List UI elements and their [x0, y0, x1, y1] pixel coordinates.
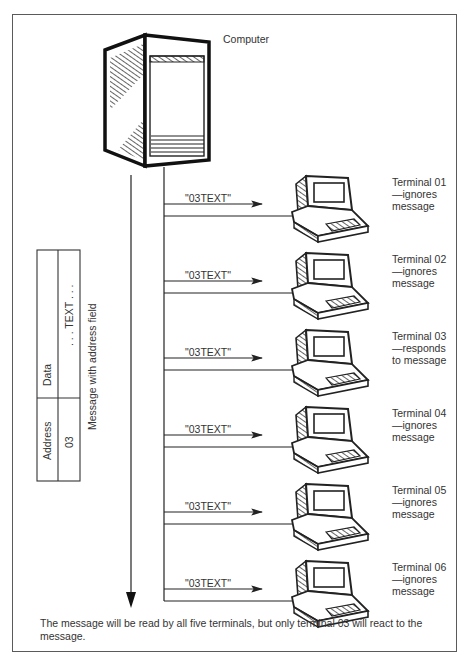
terminal-icon [292, 253, 368, 319]
terminal-action: —ignores [392, 188, 446, 200]
message-label: "03TEXT" [185, 577, 231, 589]
field-value-address: 03 [63, 436, 75, 448]
terminal-name: Terminal 06 [392, 561, 446, 573]
terminal-action: message [392, 431, 446, 443]
terminal-action: message [392, 508, 446, 520]
terminal-action: —ignores [392, 573, 446, 585]
terminal-action: to message [392, 354, 446, 366]
terminal-name: Terminal 01 [392, 176, 446, 188]
terminal-label-02: Terminal 02 —ignores message [392, 253, 446, 289]
message-label: "03TEXT" [185, 423, 231, 435]
message-label: "03TEXT" [185, 500, 231, 512]
terminal-name: Terminal 02 [392, 253, 446, 265]
terminal-label-06: Terminal 06 —ignores message [392, 561, 446, 597]
terminal-icon [292, 176, 368, 242]
message-label: "03TEXT" [185, 269, 231, 281]
terminal-label-04: Terminal 04 —ignores message [392, 407, 446, 443]
terminal-name: Terminal 03 [392, 330, 446, 342]
message-format-title: Message with address field [86, 303, 98, 430]
computer-cabinet-icon [105, 35, 209, 166]
terminal-icon [292, 407, 368, 473]
terminal-action: —ignores [392, 419, 446, 431]
terminal-action: —responds [392, 342, 446, 354]
terminal-action: message [392, 585, 446, 597]
terminal-icon [292, 330, 368, 396]
terminal-action: message [392, 277, 446, 289]
message-label: "03TEXT" [185, 346, 231, 358]
terminal-name: Terminal 05 [392, 484, 446, 496]
terminal-action: —ignores [392, 265, 446, 277]
computer-label: Computer [223, 33, 269, 45]
terminal-label-03: Terminal 03 —responds to message [392, 330, 446, 366]
field-header-data: Data [41, 364, 53, 386]
terminal-name: Terminal 04 [392, 407, 446, 419]
terminal-action: message [392, 200, 446, 212]
field-header-address: Address [41, 421, 53, 460]
terminal-label-01: Terminal 01 —ignores message [392, 176, 446, 212]
field-value-data: . . . TEXT . . . [63, 285, 75, 346]
terminal-label-05: Terminal 05 —ignores message [392, 484, 446, 520]
terminal-action: —ignores [392, 496, 446, 508]
message-label: "03TEXT" [185, 192, 231, 204]
figure-caption: The message will be read by all five ter… [40, 617, 440, 643]
terminal-icon [292, 484, 368, 550]
